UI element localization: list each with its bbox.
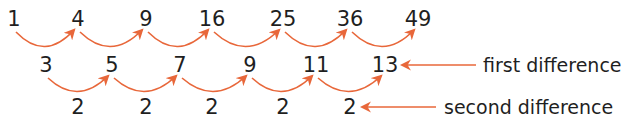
second-difference-label: second difference [444, 96, 613, 118]
second-difference-value: 2 [71, 95, 84, 119]
sequence-value: 49 [405, 7, 432, 31]
sequence-value: 4 [71, 7, 84, 31]
first-difference-value: 11 [303, 53, 330, 77]
sequence-value: 36 [337, 7, 364, 31]
first-difference-value: 13 [372, 53, 399, 77]
sequence-value: 9 [139, 7, 152, 31]
sequence-value: 16 [199, 7, 226, 31]
curved-arrow-icon [48, 76, 108, 92]
first-difference-value: 9 [243, 53, 256, 77]
second-difference-value: 2 [276, 95, 289, 119]
curved-arrow-icon [148, 30, 208, 47]
curved-arrow-icon [285, 30, 346, 47]
first-difference-value: 5 [105, 53, 118, 77]
first-difference-label: first difference [483, 54, 622, 76]
differences-diagram: 149162536493579111322222 first differenc… [0, 0, 634, 125]
first-difference-value: 3 [39, 53, 52, 77]
sequence-value: 1 [7, 7, 20, 31]
curved-arrow-icon [214, 30, 279, 47]
number-rows: 149162536493579111322222 [7, 7, 431, 119]
second-difference-value: 2 [343, 95, 356, 119]
second-difference-value: 2 [139, 95, 152, 119]
curved-arrow-icon [318, 76, 381, 92]
curved-arrow-icon [182, 76, 246, 92]
curved-arrow-icon [16, 30, 74, 47]
row-labels: first difference second difference [444, 54, 622, 118]
curved-arrow-icon [114, 76, 176, 92]
first-difference-value: 7 [173, 53, 186, 77]
sequence-value: 25 [270, 7, 297, 31]
curved-arrow-icon [80, 30, 142, 47]
curved-arrow-icon [352, 30, 414, 47]
curved-arrow-icon [252, 76, 312, 92]
second-difference-value: 2 [205, 95, 218, 119]
